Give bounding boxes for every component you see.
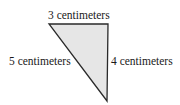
hypotenuse-label: 5 centimeters xyxy=(9,56,71,68)
top-side-label: 3 centimeters xyxy=(48,10,110,22)
right-side-label: 4 centimeters xyxy=(111,56,173,68)
